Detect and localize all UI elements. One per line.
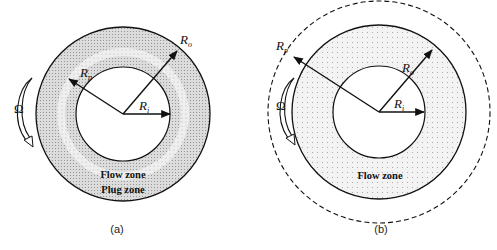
omega-label-a: Ω — [14, 101, 24, 116]
plug-zone-label-a: Plug zone — [101, 184, 145, 195]
panel-a: Ro Rp Ri Flow zone Plug zone Ω (a) — [14, 27, 210, 235]
omega-label-b: Ω — [276, 98, 286, 113]
panel-caption-a: (a) — [110, 223, 123, 235]
panel-b: Rp Ro Ri Flow zone Ω (b) — [268, 1, 490, 235]
figure-canvas: Ro Rp Ri Flow zone Plug zone Ω (a) Rp Ro… — [0, 0, 497, 250]
plug-radius-label-b: Rp — [275, 38, 288, 55]
flow-zone-label-b: Flow zone — [357, 170, 403, 181]
flow-zone-label-a: Flow zone — [100, 169, 146, 180]
panel-caption-b: (b) — [374, 223, 387, 235]
outer-radius-label-a: Ro — [179, 32, 192, 49]
